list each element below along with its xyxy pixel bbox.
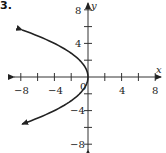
graph-canvas: 3. x y 0 −8 −4 4 8 8 4 −4 −8 bbox=[0, 0, 166, 153]
x-tick-label: 8 bbox=[152, 85, 158, 96]
origin-label: 0 bbox=[80, 81, 86, 92]
problem-number: 3. bbox=[0, 0, 12, 12]
y-axis-label: y bbox=[90, 0, 97, 11]
x-tick-label: 4 bbox=[119, 85, 125, 96]
y-tick-label: 4 bbox=[75, 38, 81, 49]
y-tick-label: 8 bbox=[75, 5, 81, 16]
y-tick-label: −8 bbox=[70, 139, 85, 150]
x-tick-label: −8 bbox=[14, 85, 29, 96]
y-tick-label: −4 bbox=[70, 105, 85, 116]
x-tick-label: −4 bbox=[48, 85, 63, 96]
x-axis-label: x bbox=[156, 64, 162, 75]
